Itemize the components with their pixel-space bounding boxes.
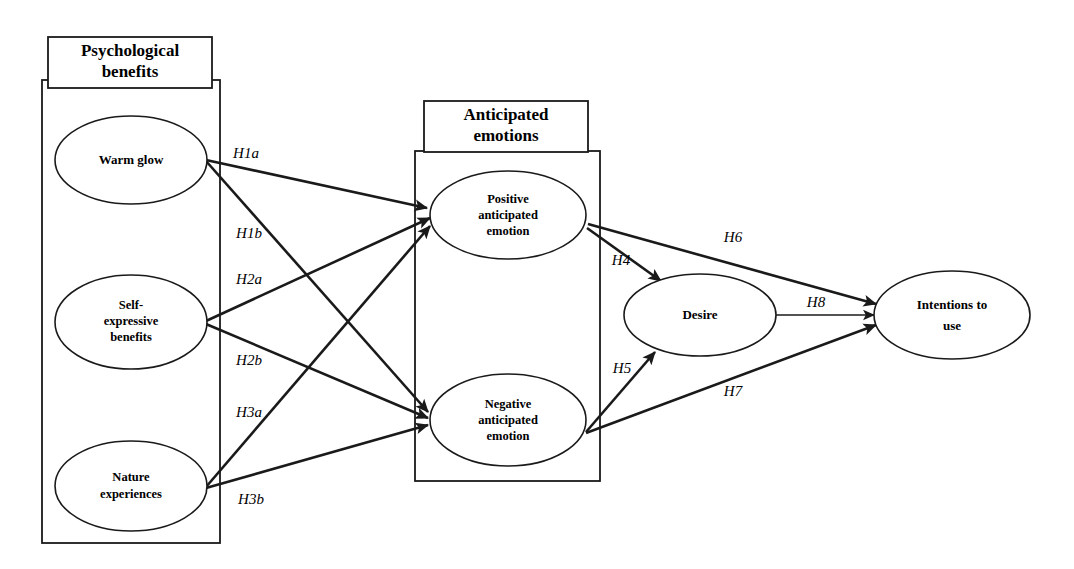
node-desire[interactable]: Desire: [624, 274, 776, 356]
node-label-self-expressive-benefits-line2: expressive: [104, 314, 159, 328]
node-label-negative-anticipated-emotion-line2: anticipated: [478, 413, 538, 427]
group-title-anticipated-emotions: Anticipated: [464, 105, 550, 124]
hypothesis-label-H1a: H1a: [232, 145, 259, 161]
hypothesis-label-H8: H8: [806, 294, 826, 310]
group-title-psychological-benefits-line2: benefits: [102, 62, 159, 81]
path-H1a: [206, 160, 427, 208]
node-label-intentions-to-use-line2: use: [943, 318, 961, 333]
group-title-anticipated-emotions-line2: emotions: [473, 126, 539, 145]
node-positive-anticipated-emotion[interactable]: Positive anticipated emotion: [430, 171, 586, 259]
hypothesis-label-H1b: H1b: [235, 225, 262, 241]
node-shape-intentions-to-use: [874, 271, 1030, 359]
research-model-diagram: Warm glow Self- expressive benefits Natu…: [0, 0, 1074, 569]
node-label-negative-anticipated-emotion-line3: emotion: [486, 429, 529, 443]
node-label-positive-anticipated-emotion-line3: emotion: [486, 224, 529, 238]
group-title-psychological-benefits: Psychological: [81, 41, 179, 60]
hypothesis-label-H2b: H2b: [235, 352, 262, 368]
hypothesis-label-H4: H4: [611, 252, 631, 268]
path-H3b: [206, 425, 428, 488]
diagram-canvas: Warm glow Self- expressive benefits Natu…: [0, 0, 1074, 569]
hypothesis-label-H5: H5: [612, 360, 632, 376]
node-self-expressive-benefits[interactable]: Self- expressive benefits: [55, 275, 207, 369]
hypothesis-label-H3a: H3a: [235, 404, 262, 420]
hypothesis-label-H3b: H3b: [237, 491, 264, 507]
node-label-self-expressive-benefits: Self-: [119, 298, 143, 312]
hypothesis-label-H6: H6: [723, 229, 743, 245]
node-label-self-expressive-benefits-line3: benefits: [110, 330, 152, 344]
node-label-negative-anticipated-emotion: Negative: [485, 397, 532, 411]
node-label-warm-glow: Warm glow: [99, 152, 164, 167]
hypothesis-label-H2a: H2a: [235, 271, 262, 287]
node-nature-experiences[interactable]: Nature experiences: [55, 441, 207, 531]
group-header-anticipated-emotions: Anticipated emotions: [424, 101, 588, 152]
node-warm-glow[interactable]: Warm glow: [55, 116, 207, 204]
group-header-psychological-benefits: Psychological benefits: [48, 37, 212, 88]
node-label-positive-anticipated-emotion: Positive: [487, 192, 529, 206]
node-negative-anticipated-emotion[interactable]: Negative anticipated emotion: [430, 374, 586, 466]
node-label-intentions-to-use: Intentions to: [917, 297, 987, 312]
node-label-nature-experiences-line2: experiences: [100, 487, 162, 501]
node-intentions-to-use[interactable]: Intentions to use: [874, 271, 1030, 359]
hypothesis-label-H7: H7: [723, 383, 744, 399]
node-label-desire: Desire: [682, 307, 717, 322]
node-label-positive-anticipated-emotion-line2: anticipated: [478, 208, 538, 222]
node-label-nature-experiences: Nature: [112, 470, 150, 484]
